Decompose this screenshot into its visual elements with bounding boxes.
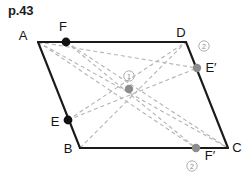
dashed-lines-group — [38, 42, 228, 148]
vertex-label-A: A — [19, 28, 28, 43]
step-marker-2-top: 2 — [199, 41, 209, 51]
dashed-line-F-Fprime — [66, 42, 196, 148]
point-F-dot — [62, 38, 71, 47]
dashed-line-A-C — [38, 42, 228, 148]
point-Fprime-dot — [192, 144, 200, 152]
step-marker-1-number: 1 — [127, 73, 131, 80]
dashed-line-F-C — [66, 42, 228, 148]
vertex-label-D: D — [176, 25, 185, 40]
step-marker-2-bottom-number: 2 — [190, 163, 194, 170]
point-label-F: F — [59, 19, 67, 34]
point-label-Fprime: F′ — [205, 148, 216, 163]
point-Eprime-dot — [193, 64, 201, 72]
point-E-dot — [64, 116, 73, 125]
vertex-label-B: B — [64, 141, 73, 156]
dashed-line-A-Eprime — [38, 42, 197, 68]
dashed-line-E-Eprime — [68, 68, 197, 120]
dashed-line-A-Fprime — [38, 42, 196, 148]
point-label-Eprime: E′ — [205, 60, 217, 75]
parallelogram-figure: A D C B F E E′ F′ 1 2 2 — [0, 0, 249, 180]
point-center-dot — [125, 85, 133, 93]
step-marker-2-top-number: 2 — [202, 43, 206, 50]
point-labels-group: F E E′ F′ — [51, 19, 217, 163]
edge-D-C — [186, 42, 228, 148]
edge-A-B — [38, 42, 80, 148]
step-marker-2-bottom: 2 — [187, 161, 197, 171]
vertex-label-C: C — [232, 140, 241, 155]
figure-container: p.43 A D C B — [0, 0, 249, 180]
point-label-E: E — [51, 114, 60, 129]
